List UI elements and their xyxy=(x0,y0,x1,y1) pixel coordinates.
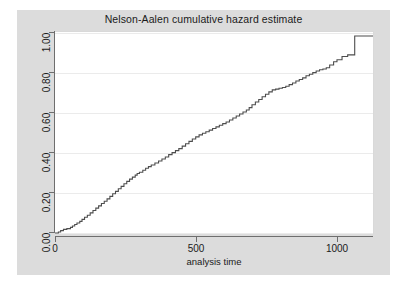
y-tick-label-0-40: 0.40 xyxy=(41,151,52,175)
x-tick-label-0: 0 xyxy=(35,243,75,254)
plot-area xyxy=(55,31,374,234)
y-axis-line xyxy=(54,31,55,233)
x-tick-mark-500 xyxy=(196,237,197,242)
y-tick-label-0-80: 0.80 xyxy=(41,71,52,95)
y-tick-label-0-20: 0.20 xyxy=(41,191,52,215)
x-tick-label-1000: 1000 xyxy=(317,243,357,254)
y-tick-label-1-00: 1.00 xyxy=(41,31,52,55)
x-axis-title: analysis time xyxy=(55,256,373,267)
x-tick-label-500: 500 xyxy=(176,243,216,254)
x-axis-line xyxy=(55,236,373,237)
chart-title: Nelson-Aalen cumulative hazard estimate xyxy=(17,13,390,25)
chart-figure: Nelson-Aalen cumulative hazard estimate … xyxy=(0,0,407,287)
y-tick-label-0-60: 0.60 xyxy=(41,111,52,135)
x-tick-mark-0 xyxy=(55,237,56,242)
x-tick-mark-1000 xyxy=(337,237,338,242)
hazard-step-curve xyxy=(55,32,373,234)
